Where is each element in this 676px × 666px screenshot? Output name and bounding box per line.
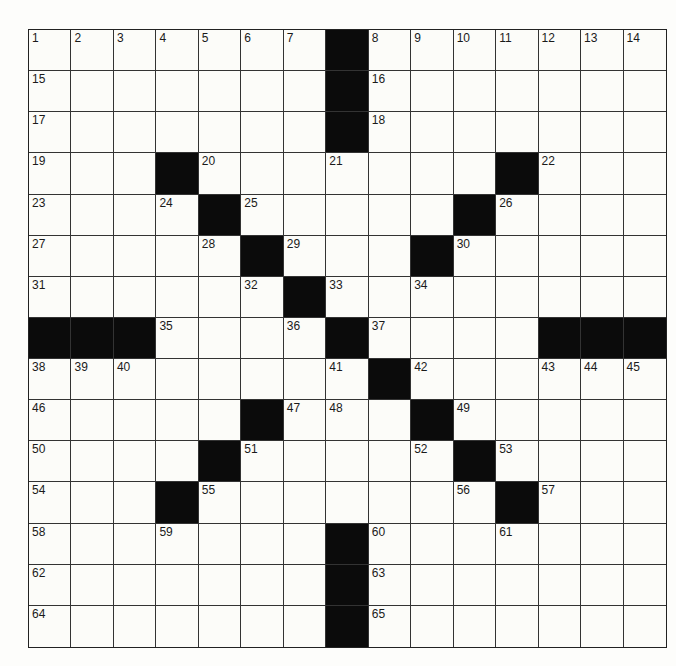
grid-cell[interactable] bbox=[496, 565, 538, 606]
grid-cell[interactable] bbox=[156, 112, 198, 153]
grid-cell[interactable] bbox=[624, 565, 666, 606]
grid-cell[interactable]: 57 bbox=[539, 482, 581, 523]
grid-cell[interactable] bbox=[114, 71, 156, 112]
grid-cell[interactable] bbox=[199, 359, 241, 400]
grid-cell[interactable] bbox=[624, 277, 666, 318]
grid-cell[interactable]: 14 bbox=[624, 30, 666, 71]
grid-cell[interactable] bbox=[71, 277, 113, 318]
grid-cell[interactable] bbox=[581, 153, 623, 194]
grid-cell[interactable] bbox=[114, 277, 156, 318]
grid-cell[interactable]: 42 bbox=[411, 359, 453, 400]
grid-cell[interactable] bbox=[241, 565, 283, 606]
grid-cell[interactable] bbox=[454, 153, 496, 194]
grid-cell[interactable] bbox=[581, 112, 623, 153]
grid-cell[interactable] bbox=[624, 400, 666, 441]
grid-cell[interactable] bbox=[114, 236, 156, 277]
grid-cell[interactable]: 59 bbox=[156, 524, 198, 565]
grid-cell[interactable] bbox=[581, 441, 623, 482]
grid-cell[interactable] bbox=[199, 112, 241, 153]
grid-cell[interactable] bbox=[326, 236, 368, 277]
grid-cell[interactable]: 64 bbox=[29, 606, 71, 647]
grid-cell[interactable] bbox=[454, 524, 496, 565]
grid-cell[interactable]: 6 bbox=[241, 30, 283, 71]
grid-cell[interactable]: 27 bbox=[29, 236, 71, 277]
grid-cell[interactable] bbox=[71, 195, 113, 236]
grid-cell[interactable] bbox=[241, 71, 283, 112]
grid-cell[interactable] bbox=[369, 441, 411, 482]
grid-cell[interactable] bbox=[624, 195, 666, 236]
grid-cell[interactable] bbox=[284, 112, 326, 153]
grid-cell[interactable]: 58 bbox=[29, 524, 71, 565]
grid-cell[interactable] bbox=[496, 318, 538, 359]
grid-cell[interactable] bbox=[114, 153, 156, 194]
grid-cell[interactable] bbox=[539, 112, 581, 153]
grid-cell[interactable] bbox=[199, 71, 241, 112]
grid-cell[interactable]: 29 bbox=[284, 236, 326, 277]
grid-cell[interactable] bbox=[454, 112, 496, 153]
grid-cell[interactable]: 21 bbox=[326, 153, 368, 194]
grid-cell[interactable] bbox=[284, 441, 326, 482]
grid-cell[interactable] bbox=[624, 524, 666, 565]
grid-cell[interactable] bbox=[114, 565, 156, 606]
grid-cell[interactable] bbox=[581, 236, 623, 277]
grid-cell[interactable] bbox=[624, 606, 666, 647]
grid-cell[interactable] bbox=[581, 400, 623, 441]
grid-cell[interactable] bbox=[539, 195, 581, 236]
grid-cell[interactable] bbox=[156, 236, 198, 277]
grid-cell[interactable]: 52 bbox=[411, 441, 453, 482]
grid-cell[interactable]: 22 bbox=[539, 153, 581, 194]
grid-cell[interactable]: 62 bbox=[29, 565, 71, 606]
grid-cell[interactable] bbox=[496, 236, 538, 277]
grid-cell[interactable] bbox=[156, 359, 198, 400]
grid-cell[interactable] bbox=[539, 524, 581, 565]
grid-cell[interactable] bbox=[624, 482, 666, 523]
grid-cell[interactable] bbox=[581, 277, 623, 318]
grid-cell[interactable]: 56 bbox=[454, 482, 496, 523]
grid-cell[interactable]: 33 bbox=[326, 277, 368, 318]
grid-cell[interactable]: 28 bbox=[199, 236, 241, 277]
grid-cell[interactable] bbox=[539, 277, 581, 318]
grid-cell[interactable] bbox=[539, 400, 581, 441]
grid-cell[interactable]: 23 bbox=[29, 195, 71, 236]
grid-cell[interactable] bbox=[454, 318, 496, 359]
grid-cell[interactable]: 32 bbox=[241, 277, 283, 318]
grid-cell[interactable] bbox=[114, 482, 156, 523]
grid-cell[interactable]: 31 bbox=[29, 277, 71, 318]
grid-cell[interactable]: 7 bbox=[284, 30, 326, 71]
grid-cell[interactable] bbox=[71, 112, 113, 153]
grid-cell[interactable] bbox=[326, 441, 368, 482]
grid-cell[interactable]: 2 bbox=[71, 30, 113, 71]
grid-cell[interactable]: 10 bbox=[454, 30, 496, 71]
grid-cell[interactable]: 65 bbox=[369, 606, 411, 647]
grid-cell[interactable] bbox=[241, 318, 283, 359]
grid-cell[interactable] bbox=[326, 195, 368, 236]
grid-cell[interactable] bbox=[539, 565, 581, 606]
grid-cell[interactable] bbox=[369, 153, 411, 194]
grid-cell[interactable] bbox=[241, 606, 283, 647]
grid-cell[interactable] bbox=[284, 482, 326, 523]
grid-cell[interactable] bbox=[581, 565, 623, 606]
grid-cell[interactable]: 63 bbox=[369, 565, 411, 606]
grid-cell[interactable] bbox=[411, 112, 453, 153]
grid-cell[interactable] bbox=[156, 606, 198, 647]
grid-cell[interactable]: 17 bbox=[29, 112, 71, 153]
grid-cell[interactable] bbox=[624, 153, 666, 194]
grid-cell[interactable] bbox=[581, 71, 623, 112]
grid-cell[interactable] bbox=[114, 112, 156, 153]
grid-cell[interactable]: 15 bbox=[29, 71, 71, 112]
grid-cell[interactable] bbox=[71, 565, 113, 606]
grid-cell[interactable] bbox=[369, 277, 411, 318]
grid-cell[interactable] bbox=[624, 71, 666, 112]
grid-cell[interactable] bbox=[496, 71, 538, 112]
grid-cell[interactable] bbox=[241, 112, 283, 153]
grid-cell[interactable] bbox=[581, 606, 623, 647]
grid-cell[interactable]: 37 bbox=[369, 318, 411, 359]
grid-cell[interactable]: 20 bbox=[199, 153, 241, 194]
grid-cell[interactable] bbox=[114, 524, 156, 565]
grid-cell[interactable] bbox=[496, 112, 538, 153]
grid-cell[interactable] bbox=[454, 565, 496, 606]
grid-cell[interactable] bbox=[199, 606, 241, 647]
grid-cell[interactable]: 18 bbox=[369, 112, 411, 153]
grid-cell[interactable] bbox=[581, 524, 623, 565]
grid-cell[interactable] bbox=[71, 482, 113, 523]
